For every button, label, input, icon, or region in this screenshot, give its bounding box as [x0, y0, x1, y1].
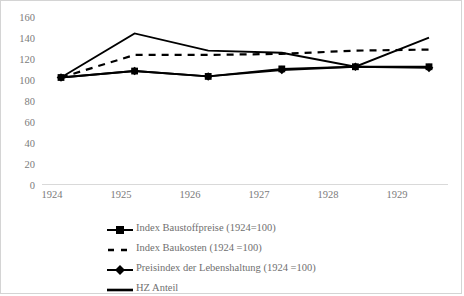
y-axis-tick-60: 60 [7, 118, 35, 128]
legend-label-baukosten: Index Baukosten (1924 =100) [136, 242, 262, 253]
x-axis-tick-1924: 1924 [22, 189, 82, 200]
chart-canvas [42, 13, 448, 185]
y-axis-tick-40: 40 [7, 139, 35, 149]
chart-frame: 160 140 120 100 80 60 40 20 0 1924 1925 … [0, 0, 462, 294]
legend-label-lebenshaltung: Preisindex der Lebenshaltung (1924 =100) [136, 262, 316, 273]
y-axis-tick-160: 160 [7, 13, 35, 23]
legend-item-hz-anteil[interactable]: HZ Anteil [107, 279, 447, 296]
square-marker-line-icon [107, 222, 133, 234]
solid-line-icon [107, 282, 133, 294]
y-axis-tick-120: 120 [7, 55, 35, 65]
legend-label-baustoffpreise: Index Baustoffpreise (1924=100) [136, 222, 276, 233]
x-axis-tick-1926: 1926 [160, 189, 220, 200]
series-group [57, 33, 434, 81]
y-axis-tick-100: 100 [7, 76, 35, 86]
x-axis-tick-1929: 1929 [367, 189, 427, 200]
diamond-marker-line-icon [107, 262, 133, 274]
legend-item-baustoffpreise[interactable]: Index Baustoffpreise (1924=100) [107, 219, 447, 236]
plot-area [42, 13, 448, 185]
legend-label-hz-anteil: HZ Anteil [136, 282, 178, 293]
dashed-line-icon [107, 242, 133, 254]
x-axis-tick-1927: 1927 [229, 189, 289, 200]
chart-legend: Index Baustoffpreise (1924=100) Index Ba… [107, 219, 447, 296]
y-axis-tick-20: 20 [7, 160, 35, 170]
y-axis-tick-140: 140 [7, 34, 35, 44]
y-axis-tick-80: 80 [7, 97, 35, 107]
legend-item-lebenshaltung[interactable]: Preisindex der Lebenshaltung (1924 =100) [107, 259, 447, 276]
x-axis-tick-1925: 1925 [91, 189, 151, 200]
x-axis-tick-1928: 1928 [298, 189, 358, 200]
legend-item-baukosten[interactable]: Index Baukosten (1924 =100) [107, 239, 447, 256]
